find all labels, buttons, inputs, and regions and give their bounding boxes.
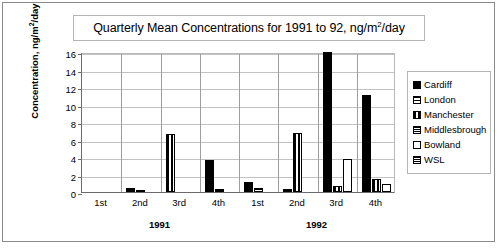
bar-group-bars xyxy=(318,54,357,192)
y-axis-tick-label: 2 xyxy=(71,171,76,182)
bar xyxy=(372,179,381,192)
legend-item: London xyxy=(413,92,486,107)
legend-item-label: WSL xyxy=(424,154,445,165)
bar xyxy=(283,189,292,192)
page-title: Quarterly Mean Concentrations for 1991 t… xyxy=(93,20,405,35)
bar xyxy=(215,189,224,192)
bar xyxy=(244,182,253,192)
chart-title-post: /day xyxy=(382,22,405,36)
y-axis-title-post: /day xyxy=(29,3,40,22)
bar xyxy=(166,134,175,192)
bar-group-bars xyxy=(200,54,239,192)
bar xyxy=(136,190,145,192)
x-axis-tick-label: 4th xyxy=(369,197,382,208)
bar-group-bars xyxy=(82,54,121,192)
legend-swatch-icon xyxy=(413,111,421,119)
bar xyxy=(343,159,352,192)
legend-item: Middlesbrough xyxy=(413,122,486,137)
bar xyxy=(323,52,332,192)
legend-item: WSL xyxy=(413,152,486,167)
y-axis-tick-label: 14 xyxy=(65,66,76,77)
legend-item: Cardiff xyxy=(413,77,486,92)
bar-group xyxy=(239,54,278,192)
y-axis-tick-label: 8 xyxy=(71,119,76,130)
bar-group-bars xyxy=(278,54,317,192)
legend-swatch-icon xyxy=(413,156,421,164)
x-axis-tick-label: 1st xyxy=(251,197,264,208)
figure-frame: Quarterly Mean Concentrations for 1991 t… xyxy=(2,2,495,242)
bar xyxy=(382,184,391,192)
y-axis-tick-label: 0 xyxy=(71,189,76,200)
bar-group xyxy=(318,54,357,192)
x-axis-group-label: 1991 xyxy=(149,219,170,230)
legend-item-label: Cardiff xyxy=(424,79,452,90)
bar-group-bars xyxy=(357,54,396,192)
bar-group xyxy=(121,54,160,192)
legend-swatch-icon xyxy=(413,141,421,149)
bar xyxy=(205,160,214,192)
legend-item-label: London xyxy=(424,94,456,105)
y-axis-tick-label: 16 xyxy=(65,49,76,60)
legend-item: Manchester xyxy=(413,107,486,122)
legend-swatch-icon xyxy=(413,126,421,134)
y-axis-tick-label: 6 xyxy=(71,136,76,147)
bar-group xyxy=(161,54,200,192)
y-axis-tick-mark xyxy=(78,194,82,195)
plot-wrapper: 0246810121416 1st2nd3rd4th1st2nd3rd4th 1… xyxy=(81,53,395,193)
x-axis-group-label: 1992 xyxy=(306,219,327,230)
chart-title-box: Quarterly Mean Concentrations for 1991 t… xyxy=(73,15,425,41)
x-axis-tick-label: 3rd xyxy=(172,197,186,208)
plot-area: 0246810121416 xyxy=(81,53,395,193)
chart-title-pre: Quarterly Mean Concentrations for 1991 t… xyxy=(93,22,377,36)
chart-legend: CardiffLondonManchesterMiddlesbroughBowl… xyxy=(407,71,491,174)
y-axis-title-pre: Concentration, ng/m xyxy=(29,26,40,118)
bar xyxy=(254,188,263,192)
bar-group xyxy=(200,54,239,192)
x-axis-tick-label: 4th xyxy=(212,197,225,208)
legend-item-label: Manchester xyxy=(424,109,474,120)
y-axis-title: Concentration, ng/m2/day xyxy=(28,0,40,130)
bar-group-bars xyxy=(121,54,160,192)
legend-item: Bowland xyxy=(413,137,486,152)
bar-group-bars xyxy=(161,54,200,192)
bar-group-bars xyxy=(239,54,278,192)
x-axis-tick-label: 3rd xyxy=(329,197,343,208)
y-axis-tick-label: 10 xyxy=(65,101,76,112)
legend-swatch-icon xyxy=(413,81,421,89)
x-axis-tick-label: 2nd xyxy=(289,197,305,208)
bar xyxy=(333,186,342,192)
bar xyxy=(362,95,371,192)
y-axis-tick-label: 4 xyxy=(71,154,76,165)
x-axis-tick-label: 2nd xyxy=(132,197,148,208)
x-axis-tick-label: 1st xyxy=(94,197,107,208)
bar-group xyxy=(357,54,396,192)
y-axis-tick-label: 12 xyxy=(65,84,76,95)
y-axis-title-superscript: 2 xyxy=(28,22,35,26)
legend-item-label: Middlesbrough xyxy=(424,124,486,135)
bar xyxy=(126,188,135,192)
legend-swatch-icon xyxy=(413,96,421,104)
bar xyxy=(293,133,302,192)
legend-item-label: Bowland xyxy=(424,139,460,150)
bar-group xyxy=(278,54,317,192)
bar-group xyxy=(82,54,121,192)
